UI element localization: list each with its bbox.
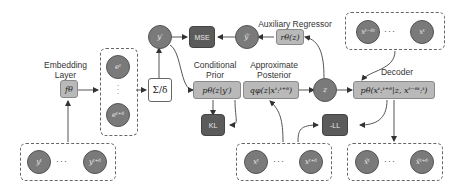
vertical-ellipsis: ··· [115,84,121,96]
x-history-first-node: xᵗ⁻ᵟᵗ [356,20,380,44]
x-input-last-node: xᵗ⁺ᵟ [299,150,323,174]
x-output-first-node: x̂ᵗ [355,150,379,174]
approximate-posterior-label: Approximate Posterior [244,60,304,80]
negative-log-likelihood-node: -LL [322,114,348,136]
auxiliary-regressor-label: Auxiliary Regressor [255,19,335,29]
mse-loss-node: MSE [189,26,215,48]
ellipsis: ··· [56,156,68,166]
approximate-posterior-node: qφ(z|xᵗ:ᵗ⁺ᵟ) [243,81,299,99]
x-input-first-node: xᵗ [244,150,268,174]
latent-z-node: z [313,78,337,102]
x-history-last-node: xᵗ [410,20,434,44]
sum-average-node: Σ/δ [148,78,172,102]
y-prime-node: y′ [148,25,172,49]
embedding-node-last: eᵗ⁺ᵟ [106,103,130,127]
x-output-last-node: x̂ᵗ⁺ᵟ [410,150,434,174]
conditional-prior-node: pθ(z|y′) [193,81,241,99]
decoder-label: Decoder [372,67,422,77]
ellipsis: ··· [384,26,396,36]
embedding-node-first: eᵗ [106,55,130,79]
ellipsis: ··· [273,156,285,166]
y-input-last-node: yᵗ⁺ᵟ [83,150,107,174]
embedding-layer-label: Embedding Layer [38,60,93,80]
ellipsis: ··· [384,156,396,166]
kl-loss-node: KL [201,114,225,136]
embedding-function-node: fθ [60,80,78,98]
decoder-node: pθ(xᵗ:ᵗ⁺ᵟ|z, xᵗ⁻ᵟᵗ:ᵗ) [353,81,435,99]
y-input-first-node: yᵗ [27,150,51,174]
auxiliary-regressor-node: rθ(z) [276,29,304,45]
conditional-prior-label: Conditional Prior [190,60,240,80]
